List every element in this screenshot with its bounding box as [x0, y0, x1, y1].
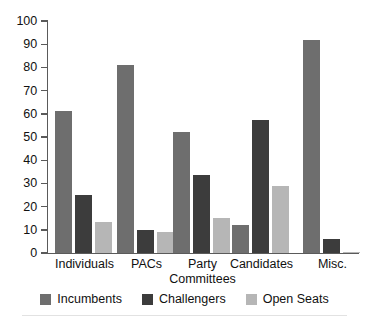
bar-chart: 1009080706050403020100 IndividualsPACsPa… — [0, 0, 369, 322]
y-axis-tick-label: 0 — [30, 244, 37, 262]
y-axis-tick-label: 90 — [23, 35, 37, 53]
bottom-divider — [22, 315, 347, 316]
bar-open-seats — [95, 222, 112, 253]
bar-incumbents — [303, 40, 320, 253]
legend-swatch-icon — [246, 294, 257, 305]
bar-challengers — [252, 120, 269, 253]
legend-item[interactable]: Challengers — [142, 292, 226, 306]
bar-group — [55, 21, 112, 253]
chart-legend: IncumbentsChallengersOpen Seats — [0, 292, 369, 306]
y-axis-tick-label: 100 — [16, 12, 37, 30]
bar-open-seats — [157, 232, 174, 253]
bar-open-seats — [213, 218, 230, 253]
bar-open-seats — [272, 186, 289, 253]
bar-challengers — [137, 230, 154, 253]
y-axis-tick-label: 50 — [23, 128, 37, 146]
bar-challengers — [193, 175, 210, 253]
legend-swatch-icon — [142, 294, 153, 305]
legend-swatch-icon — [40, 294, 51, 305]
plot-area — [47, 21, 358, 253]
bar-incumbents — [117, 65, 134, 253]
bar-group — [303, 21, 360, 253]
y-axis-tick-label: 80 — [23, 58, 37, 76]
y-axis-tick-label: 30 — [23, 174, 37, 192]
legend-label: Challengers — [159, 292, 226, 306]
legend-label: Open Seats — [263, 292, 329, 306]
y-axis-tick-label: 10 — [23, 221, 37, 239]
legend-item[interactable]: Incumbents — [40, 292, 122, 306]
y-axis-tick-label: 20 — [23, 198, 37, 216]
bar-challengers — [323, 239, 340, 253]
bar-incumbents — [232, 225, 249, 253]
bar-incumbents — [55, 111, 72, 253]
y-axis-tick-label: 60 — [23, 105, 37, 123]
bar-group — [117, 21, 174, 253]
legend-label: Incumbents — [57, 292, 122, 306]
bar-group — [232, 21, 289, 253]
x-axis-label: Misc. — [289, 257, 369, 272]
y-axis-tick-label: 40 — [23, 151, 37, 169]
bar-challengers — [75, 195, 92, 253]
bar-incumbents — [173, 132, 190, 253]
y-axis-tick-label: 70 — [23, 82, 37, 100]
legend-item[interactable]: Open Seats — [246, 292, 329, 306]
bar-open-seats — [343, 252, 360, 253]
bar-group — [173, 21, 230, 253]
